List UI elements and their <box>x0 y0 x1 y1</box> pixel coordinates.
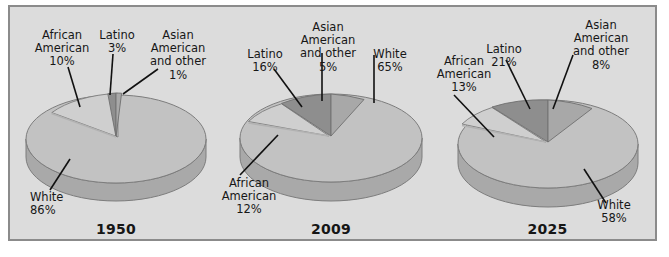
pie-chart-figure: African American 10% Latino 3% Asian Ame… <box>0 0 669 257</box>
callout-2009-african-american: African American 12% <box>214 177 284 217</box>
year-label-2009: 2009 <box>222 221 440 237</box>
chart-panel-1950: African American 10% Latino 3% Asian Ame… <box>10 7 222 243</box>
callout-2025-asian-other: Asian American and other 8% <box>558 19 644 72</box>
callout-1950-latino: Latino 3% <box>92 29 142 55</box>
year-label-1950: 1950 <box>10 221 222 237</box>
leader-1950-latino <box>110 54 113 95</box>
chart-panel-2025: Latino 21% Asian American and other 8% A… <box>440 7 655 243</box>
callout-2009-latino: Latino 16% <box>236 48 294 74</box>
callout-2009-white: White 65% <box>362 48 418 74</box>
year-label-2025: 2025 <box>440 221 655 237</box>
chart-frame: African American 10% Latino 3% Asian Ame… <box>8 5 657 241</box>
callout-1950-asian-other: Asian American and other 1% <box>138 29 218 82</box>
callout-2009-asian-other: Asian American and other 5% <box>288 21 368 74</box>
chart-panel-2009: Asian American and other 5% White 65% La… <box>222 7 440 243</box>
callout-2025-african-american: African American 13% <box>428 55 500 95</box>
callout-1950-white: White 86% <box>30 191 100 217</box>
